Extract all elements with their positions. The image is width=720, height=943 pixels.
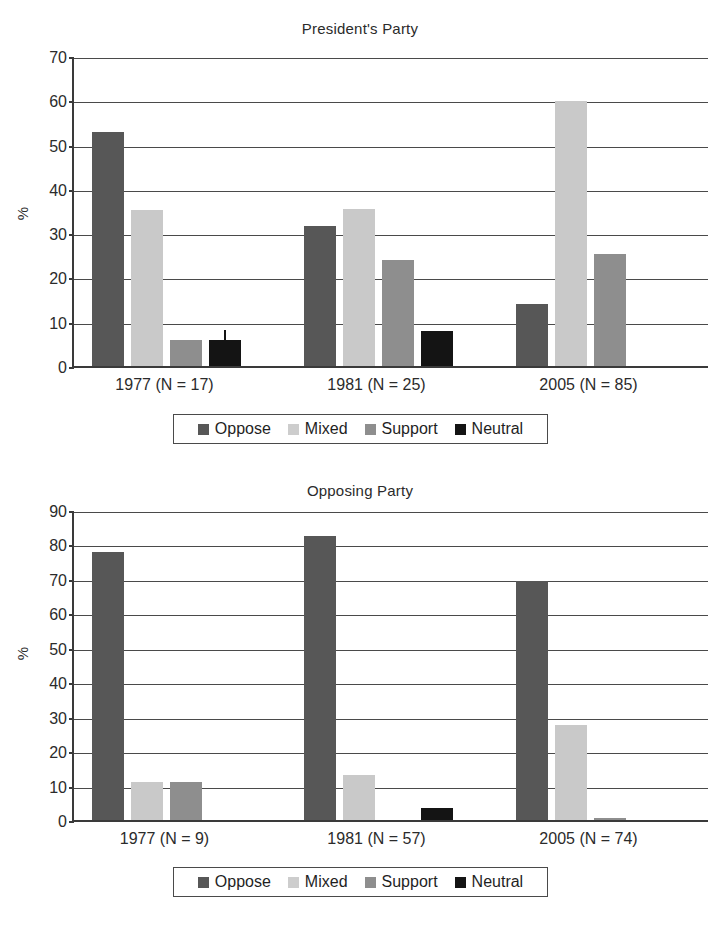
y-axis-tick-label: 50 — [49, 138, 67, 156]
legend-item-neutral[interactable]: Neutral — [455, 873, 524, 891]
plot-area: 010203040506070 — [72, 58, 708, 368]
chart-title: President's Party — [0, 20, 720, 37]
legend-swatch-neutral-icon — [455, 424, 466, 435]
gridline — [74, 58, 708, 59]
gridline — [74, 546, 708, 547]
bar-oppose-2 — [516, 581, 548, 820]
legend-label: Neutral — [472, 873, 524, 891]
y-axis-tick-mark — [69, 278, 74, 280]
y-axis-tick-label: 0 — [58, 359, 67, 377]
legend-swatch-oppose-icon — [198, 877, 209, 888]
bar-neutral-0 — [209, 340, 241, 366]
y-axis-tick-mark — [69, 323, 74, 325]
y-axis-tick-mark — [69, 580, 74, 582]
gridline — [74, 147, 708, 148]
legend-item-mixed[interactable]: Mixed — [288, 420, 348, 438]
y-axis-tick-label: 60 — [49, 93, 67, 111]
bar-support-1 — [382, 260, 414, 366]
error-bar — [224, 330, 226, 342]
legend-swatch-neutral-icon — [455, 877, 466, 888]
bar-mixed-2 — [555, 725, 587, 820]
legend-item-mixed[interactable]: Mixed — [288, 873, 348, 891]
x-axis-tick-label: 2005 (N = 74) — [539, 830, 637, 848]
y-axis-tick-label: 60 — [49, 606, 67, 624]
gridline — [74, 191, 708, 192]
gridline — [74, 719, 708, 720]
y-axis-tick-mark — [69, 190, 74, 192]
y-axis-tick-label: 10 — [49, 315, 67, 333]
bar-support-0 — [170, 782, 202, 820]
chart-legend: OpposeMixedSupportNeutral — [173, 414, 548, 444]
y-axis-tick-mark — [69, 649, 74, 651]
legend-swatch-oppose-icon — [198, 424, 209, 435]
gridline — [74, 512, 708, 513]
y-axis-tick-mark — [69, 821, 74, 823]
y-axis-tick-label: 70 — [49, 49, 67, 67]
y-axis-tick-mark — [69, 718, 74, 720]
y-axis-tick-label: 90 — [49, 503, 67, 521]
bar-neutral-1 — [421, 808, 453, 820]
y-axis-tick-label: 30 — [49, 226, 67, 244]
x-axis-tick-label: 1977 (N = 17) — [115, 376, 213, 394]
plot-area: 0102030405060708090 — [72, 512, 708, 822]
y-axis-tick-label: 20 — [49, 744, 67, 762]
legend-label: Neutral — [472, 420, 524, 438]
legend-label: Oppose — [215, 873, 271, 891]
x-axis-tick-label: 1977 (N = 9) — [120, 830, 209, 848]
bar-mixed-1 — [343, 775, 375, 820]
y-axis-tick-label: 80 — [49, 537, 67, 555]
gridline — [74, 753, 708, 754]
bar-oppose-2 — [516, 304, 548, 366]
bar-support-0 — [170, 340, 202, 366]
bar-neutral-1 — [421, 331, 453, 366]
bar-oppose-1 — [304, 226, 336, 366]
y-axis-tick-label: 20 — [49, 270, 67, 288]
y-axis-tick-label: 50 — [49, 641, 67, 659]
legend-swatch-support-icon — [365, 877, 376, 888]
y-axis-tick-mark — [69, 752, 74, 754]
bar-mixed-0 — [131, 782, 163, 820]
bar-support-2 — [594, 818, 626, 820]
legend-label: Support — [382, 420, 438, 438]
gridline — [74, 581, 708, 582]
legend-item-support[interactable]: Support — [365, 420, 438, 438]
y-axis-tick-label: 10 — [49, 779, 67, 797]
y-axis-tick-mark — [69, 367, 74, 369]
legend-item-support[interactable]: Support — [365, 873, 438, 891]
y-axis-label: % — [14, 207, 31, 220]
y-axis-tick-mark — [69, 101, 74, 103]
y-axis-tick-mark — [69, 683, 74, 685]
legend-swatch-mixed-icon — [288, 877, 299, 888]
gridline — [74, 684, 708, 685]
legend-label: Mixed — [305, 873, 348, 891]
y-axis-tick-mark — [69, 146, 74, 148]
y-axis-tick-mark — [69, 57, 74, 59]
bar-mixed-0 — [131, 210, 163, 366]
y-axis-tick-label: 40 — [49, 182, 67, 200]
y-axis-tick-label: 70 — [49, 572, 67, 590]
gridline — [74, 235, 708, 236]
y-axis-tick-label: 40 — [49, 675, 67, 693]
gridline — [74, 102, 708, 103]
legend-label: Mixed — [305, 420, 348, 438]
chart-panel-presidents-party: President's Party % 010203040506070 1977… — [0, 0, 720, 470]
x-axis-tick-label: 2005 (N = 85) — [539, 376, 637, 394]
chart-panel-opposing-party: Opposing Party % 0102030405060708090 197… — [0, 470, 720, 943]
legend-label: Oppose — [215, 420, 271, 438]
y-axis-tick-mark — [69, 614, 74, 616]
gridline — [74, 615, 708, 616]
bar-mixed-2 — [555, 101, 587, 366]
y-axis-label: % — [14, 647, 31, 660]
legend-swatch-support-icon — [365, 424, 376, 435]
legend-item-oppose[interactable]: Oppose — [198, 873, 271, 891]
chart-title: Opposing Party — [0, 482, 720, 499]
bar-oppose-0 — [92, 552, 124, 820]
legend-item-neutral[interactable]: Neutral — [455, 420, 524, 438]
bar-mixed-1 — [343, 209, 375, 366]
y-axis-tick-mark — [69, 787, 74, 789]
x-axis-tick-label: 1981 (N = 25) — [327, 376, 425, 394]
legend-item-oppose[interactable]: Oppose — [198, 420, 271, 438]
legend-swatch-mixed-icon — [288, 424, 299, 435]
x-axis-tick-label: 1981 (N = 57) — [327, 830, 425, 848]
figure-page: President's Party % 010203040506070 1977… — [0, 0, 720, 943]
